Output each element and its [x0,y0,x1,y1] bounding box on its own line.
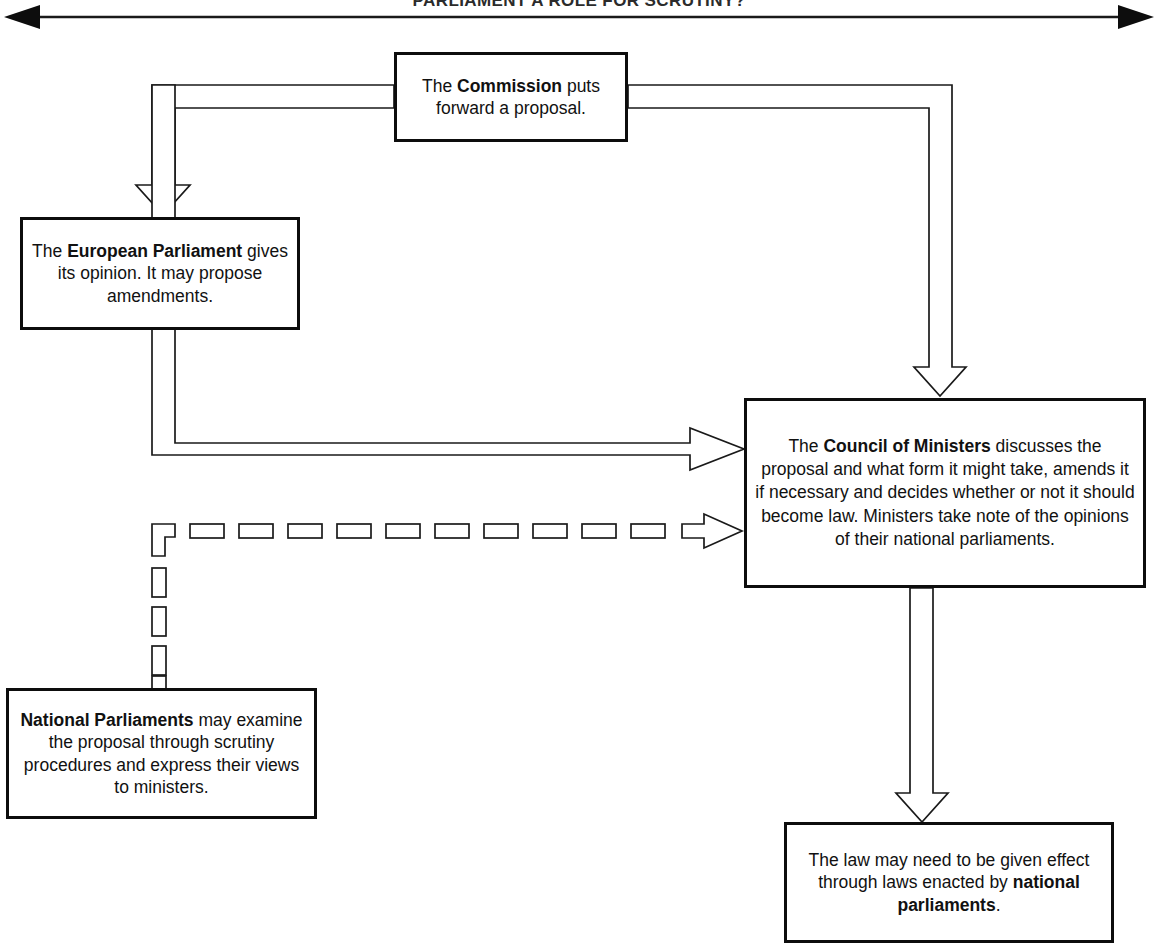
node-european-parliament: The European Parliament gives its opinio… [20,217,300,330]
edge-national-to-council-dashed [152,514,742,690]
page-title: PARLIAMENT A ROLE FOR SCRUTINY? [0,0,1158,11]
node-european-parliament-text: The European Parliament gives its opinio… [23,238,297,309]
node-national-parliaments-text: National Parliaments may examine the pro… [9,707,314,801]
edge-commission-to-council-top [628,85,966,396]
edge-council-to-law [896,588,948,822]
node-commission: The Commission puts forward a proposal. [394,52,628,142]
node-national-parliaments: National Parliaments may examine the pro… [6,688,317,819]
node-council-of-ministers-text: The Council of Ministers discusses the p… [747,433,1143,553]
node-law-enactment-text: The law may need to be given effect thro… [787,847,1111,918]
flowchart-diagram: PARLIAMENT A ROLE FOR SCRUTINY? The Comm… [0,0,1158,948]
node-commission-text: The Commission puts forward a proposal. [397,73,625,122]
node-law-enactment: The law may need to be given effect thro… [784,822,1114,943]
node-council-of-ministers: The Council of Ministers discusses the p… [744,398,1146,588]
